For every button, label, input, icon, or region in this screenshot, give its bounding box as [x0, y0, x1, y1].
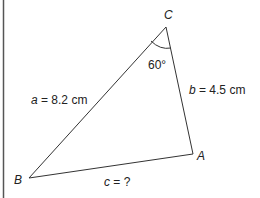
angle-label-c: 60°: [148, 58, 166, 72]
triangle-diagram: C A B 60° a = 8.2 cm b = 4.5 cm c = ?: [0, 0, 260, 198]
angle-arc-c: [151, 41, 171, 48]
side-label-c: c = ?: [104, 175, 131, 189]
side-label-a: a = 8.2 cm: [31, 93, 87, 107]
vertex-label-a: A: [196, 149, 205, 163]
vertex-label-c: C: [164, 8, 173, 22]
vertex-label-b: B: [14, 173, 22, 187]
side-label-b: b = 4.5 cm: [189, 83, 245, 97]
